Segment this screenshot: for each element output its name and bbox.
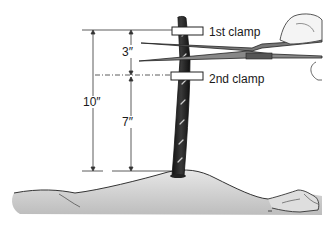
dimension-total-label: 10″ bbox=[83, 95, 101, 109]
second-clamp bbox=[171, 72, 203, 80]
dimension-between-clamps-label: 3″ bbox=[122, 45, 134, 59]
second-clamp-label: 2nd clamp bbox=[209, 72, 265, 86]
cord-clamping-diagram: 10″ 3″ 7″ 1st clamp 2nd clamp bbox=[0, 0, 333, 226]
first-clamp bbox=[172, 27, 203, 35]
infant-hand bbox=[268, 190, 319, 212]
first-clamp-label: 1st clamp bbox=[209, 25, 261, 39]
infant-body bbox=[12, 170, 322, 215]
dimension-second-clamp-to-body-label: 7″ bbox=[122, 115, 134, 129]
operator-hand bbox=[280, 14, 322, 80]
umbilical-cord bbox=[170, 16, 190, 178]
